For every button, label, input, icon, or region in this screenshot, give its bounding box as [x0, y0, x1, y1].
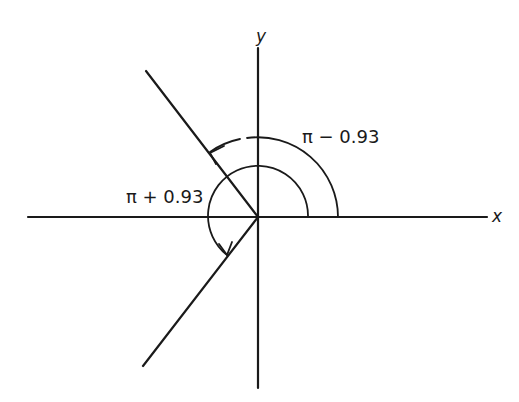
arrowhead-icon [210, 146, 224, 164]
angle-label-pi-minus: π − 0.93 [302, 126, 379, 147]
angle-diagram: y x π − 0.93 π + 0.93 [0, 0, 519, 402]
arc-pi-minus-093 [247, 137, 338, 217]
angle-label-pi-plus: π + 0.93 [126, 186, 203, 207]
third-quadrant-ray [143, 217, 258, 366]
y-axis-label: y [255, 26, 267, 46]
x-axis-label: x [491, 206, 503, 226]
